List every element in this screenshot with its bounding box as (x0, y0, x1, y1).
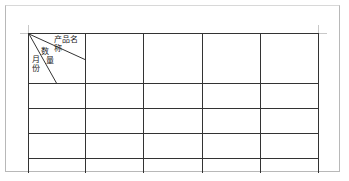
table-cell[interactable] (144, 84, 203, 109)
table-cell[interactable] (261, 109, 319, 134)
table-cell[interactable] (29, 134, 86, 159)
table-cell[interactable] (86, 84, 144, 109)
table-cell[interactable] (29, 109, 86, 134)
product-name-label: 产品名称 (54, 35, 85, 53)
diagonal-header-cell[interactable]: 产品名称 数量 月份 (29, 34, 86, 84)
table-cell[interactable] (261, 84, 319, 109)
table-row (29, 84, 319, 109)
table-cell[interactable] (144, 159, 203, 173)
data-table: 产品名称 数量 月份 (28, 33, 319, 173)
month-label: 月份 (32, 55, 41, 73)
table-cell[interactable] (86, 159, 144, 173)
table-cell[interactable] (86, 34, 144, 84)
table-cell[interactable] (144, 134, 203, 159)
table-cell[interactable] (261, 34, 319, 84)
table-cell[interactable] (144, 34, 203, 84)
table-cell[interactable] (86, 109, 144, 134)
quantity-label: 数量 (41, 47, 50, 65)
table-header-row: 产品名称 数量 月份 (29, 34, 319, 84)
table-cell[interactable] (29, 159, 86, 173)
table-row (29, 134, 319, 159)
table-cell[interactable] (144, 109, 203, 134)
table-cell[interactable] (203, 109, 261, 134)
table-cell[interactable] (203, 159, 261, 173)
table-cell[interactable] (261, 159, 319, 173)
table-cell[interactable] (203, 34, 261, 84)
table-row (29, 159, 319, 173)
table-cell[interactable] (203, 84, 261, 109)
table-cell[interactable] (86, 134, 144, 159)
table-cell[interactable] (29, 84, 86, 109)
table-cell[interactable] (203, 134, 261, 159)
table-row (29, 109, 319, 134)
table-cell[interactable] (261, 134, 319, 159)
margin-corner-mark-top-right (318, 25, 327, 34)
